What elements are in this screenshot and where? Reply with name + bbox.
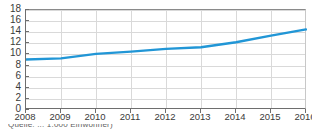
y-tick-mark xyxy=(25,20,29,21)
plot-area xyxy=(25,9,306,109)
x-tick-mark xyxy=(270,109,271,113)
y-tick-mark xyxy=(25,87,29,88)
caption-strip: Quelle: ... 1.000 Einwohner) xyxy=(0,124,312,131)
x-tick-mark xyxy=(235,109,236,113)
series-svg xyxy=(26,10,307,110)
y-tick-label: 6 xyxy=(15,71,21,81)
series-layer xyxy=(26,10,305,108)
x-tick-mark xyxy=(130,109,131,113)
y-tick-mark xyxy=(25,53,29,54)
chart-figure: 024681012141618 Quelle: ... 1.000 Einwoh… xyxy=(0,0,312,131)
y-tick-label: 2 xyxy=(15,93,21,103)
y-tick-label: 14 xyxy=(10,26,21,36)
x-tick-mark xyxy=(95,109,96,113)
y-tick-mark xyxy=(25,31,29,32)
x-tick-mark xyxy=(200,109,201,113)
y-tick-label: 8 xyxy=(15,60,21,70)
y-tick-mark xyxy=(25,9,29,10)
y-tick-mark xyxy=(25,65,29,66)
x-tick-mark xyxy=(305,109,306,113)
x-tick-label: 2016 xyxy=(294,111,312,122)
x-tick-mark xyxy=(60,109,61,113)
y-tick-label: 18 xyxy=(10,4,21,14)
y-tick-label: 16 xyxy=(10,15,21,25)
caption-text: Quelle: ... 1.000 Einwohner) xyxy=(8,124,113,129)
data-line xyxy=(26,29,306,59)
y-tick-label: 12 xyxy=(10,37,21,47)
y-tick-label: 10 xyxy=(10,48,21,58)
y-tick-label: 4 xyxy=(15,82,21,92)
y-tick-mark xyxy=(25,76,29,77)
y-tick-mark xyxy=(25,42,29,43)
x-tick-mark xyxy=(165,109,166,113)
y-tick-mark xyxy=(25,98,29,99)
x-tick-mark xyxy=(25,109,26,113)
